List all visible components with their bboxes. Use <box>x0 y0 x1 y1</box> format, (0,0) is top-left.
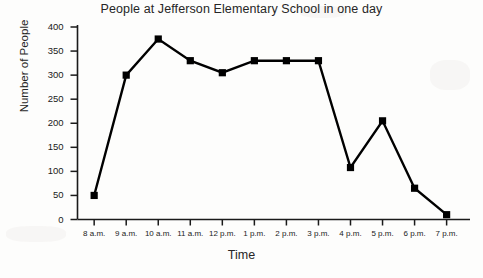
data-point-marker <box>443 211 450 218</box>
x-tick-label: 3 p.m. <box>307 229 329 238</box>
x-tick-marks <box>94 220 446 226</box>
y-tick-label: 400 <box>30 21 64 32</box>
y-tick-label: 0 <box>30 214 64 225</box>
y-tick-label: 50 <box>30 189 64 200</box>
x-tick-label: 9 a.m. <box>115 229 137 238</box>
chart-container: People at Jefferson Elementary School in… <box>0 0 483 278</box>
y-tick-label: 150 <box>30 141 64 152</box>
x-tick-label: 5 p.m. <box>371 229 393 238</box>
data-point-marker <box>315 57 322 64</box>
y-tick-label: 100 <box>30 165 64 176</box>
data-markers <box>91 35 451 218</box>
data-point-marker <box>187 57 194 64</box>
data-point-marker <box>283 57 290 64</box>
x-tick-label: 1 p.m. <box>243 229 265 238</box>
data-point-marker <box>123 72 130 79</box>
y-tick-label: 300 <box>30 69 64 80</box>
y-tick-label: 200 <box>30 117 64 128</box>
data-point-marker <box>411 185 418 192</box>
data-point-marker <box>379 117 386 124</box>
x-tick-label: 11 a.m. <box>177 229 203 238</box>
x-tick-label: 8 a.m. <box>83 229 105 238</box>
data-point-marker <box>251 57 258 64</box>
x-tick-label: 6 p.m. <box>403 229 425 238</box>
y-tick-label: 350 <box>30 45 64 56</box>
y-tick-marks <box>71 27 78 220</box>
data-point-marker <box>347 164 354 171</box>
x-tick-label: 7 p.m. <box>435 229 457 238</box>
x-tick-label: 2 p.m. <box>275 229 297 238</box>
x-tick-label: 4 p.m. <box>339 229 361 238</box>
data-line <box>94 39 446 215</box>
data-point-marker <box>219 69 226 76</box>
y-tick-label: 250 <box>30 93 64 104</box>
x-tick-label: 10 a.m. <box>145 229 172 238</box>
x-axis-title: Time <box>0 248 483 262</box>
data-point-marker <box>155 35 162 42</box>
data-point-marker <box>91 192 98 199</box>
x-tick-label: 12 p.m. <box>209 229 236 238</box>
